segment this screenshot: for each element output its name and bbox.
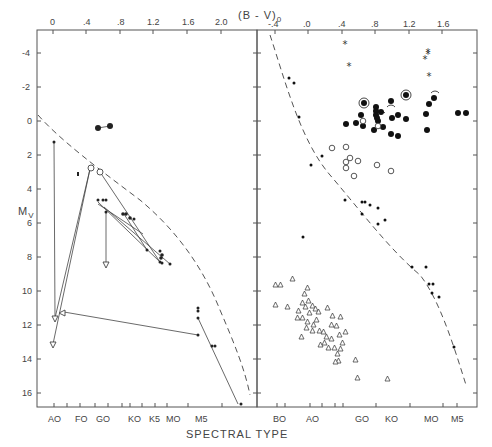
hr-diagram: ** *** *: [0, 0, 492, 447]
right-top-tick-4: 1.2: [403, 19, 416, 29]
y-tick-8: 8: [27, 252, 32, 262]
right-asterisks: ** *** *: [343, 39, 432, 82]
left-top-tick-4: 1.6: [182, 17, 195, 27]
left-bottom-tick-g0: GO: [96, 414, 110, 424]
left-top-tick-2: .8: [117, 17, 125, 27]
right-top-tick-1: .0: [303, 19, 311, 29]
svg-text:*: *: [347, 61, 352, 72]
y-tick-16: 16: [22, 388, 32, 398]
right-bottom-tick-g0: GO: [355, 414, 369, 424]
y-tick-12: 12: [22, 320, 32, 330]
left-top-tick-3: 1.2: [147, 17, 160, 27]
left-bottom-tick-m5: M5: [195, 414, 208, 424]
right-main-sequence-curve: [270, 35, 466, 385]
left-top-tick-1: .4: [83, 17, 91, 27]
left-bottom-tick-k5: K5: [149, 414, 160, 424]
y-tick-10: 10: [22, 286, 32, 296]
left-bottom-tick-m0: MO: [166, 414, 181, 424]
right-bottom-tick-k0: KO: [385, 414, 398, 424]
bottom-ticks: [54, 403, 457, 407]
right-bottom-tick-m5: M5: [451, 414, 464, 424]
right-top-tick-3: .8: [371, 19, 379, 29]
right-bottom-tick-m0: MO: [424, 414, 439, 424]
y-tick-0: 0: [27, 116, 32, 126]
y-axis-title-text: M: [18, 205, 28, 217]
right-bottom-tick-b0: BO: [273, 414, 286, 424]
y-axis-title: MV: [18, 205, 35, 220]
svg-text:*: *: [427, 71, 432, 82]
right-top-tick-2: .4: [338, 19, 346, 29]
left-filled-dots: [53, 123, 243, 406]
svg-text:*: *: [343, 39, 348, 50]
right-top-tick-5: 1.6: [437, 19, 450, 29]
y-tick-14: 14: [22, 354, 32, 364]
y-tick-4: 4: [27, 184, 32, 194]
right-circled-filled: [359, 90, 439, 113]
right-filled-circles: [343, 92, 469, 139]
left-bottom-tick-a0: AO: [48, 414, 61, 424]
right-top-tick-0: -.4: [268, 19, 279, 29]
left-binary-tie-lines: [53, 126, 238, 404]
x-axis-title: SPECTRAL TYPE: [186, 428, 288, 440]
left-open-circles: [88, 165, 103, 175]
left-panel-frame: [37, 30, 257, 407]
left-bottom-tick-k0: KO: [128, 414, 141, 424]
y-axis-title-sub: V: [28, 211, 34, 220]
right-panel-frame: [257, 30, 477, 407]
right-white-dwarf-triangles: [273, 276, 390, 381]
left-top-tick-5: 2.0: [215, 17, 228, 27]
top-ticks: [53, 30, 442, 34]
svg-text:*: *: [426, 49, 431, 60]
y-tick-m2: -2: [22, 82, 30, 92]
right-bottom-tick-a0: AO: [306, 414, 319, 424]
y-tick-2: 2: [27, 150, 32, 160]
left-open-triangles: [50, 262, 109, 348]
left-top-tick-0: 0: [50, 17, 55, 27]
y-tick-m4: -4: [22, 48, 30, 58]
left-bottom-tick-f0: FO: [75, 414, 88, 424]
